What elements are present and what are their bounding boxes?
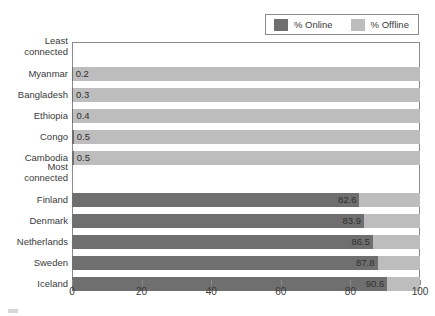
bar-row[interactable]: 86.5 <box>72 231 420 252</box>
bar-row[interactable]: 0.5 <box>72 126 420 147</box>
x-axis-tick <box>420 280 421 285</box>
x-axis-tick-label: 20 <box>136 286 147 297</box>
bar-segment-online[interactable] <box>72 193 359 207</box>
bar-value-label: 0.4 <box>76 109 89 123</box>
bar-row[interactable]: 82.6 <box>72 189 420 210</box>
bar-segment-offline[interactable] <box>73 88 420 102</box>
bar-stack: 0.5 <box>72 130 420 144</box>
bar-stack: 86.5 <box>72 235 420 249</box>
label-line-2: connected <box>0 46 68 57</box>
y-axis-label-ethiopia: Ethiopia <box>0 110 68 121</box>
x-axis-tick-label: 100 <box>412 286 429 297</box>
bar-value-label: 0.5 <box>77 130 90 144</box>
x-axis-tick-label: 80 <box>345 286 356 297</box>
bar-row[interactable]: 0.5 <box>72 147 420 168</box>
bar-segment-online[interactable] <box>72 235 373 249</box>
legend-label-offline: % Offline <box>371 20 409 30</box>
y-axis-label-sweden: Sweden <box>0 257 68 268</box>
bar-stack: 83.9 <box>72 214 420 228</box>
bar-value-label: 0.5 <box>77 151 90 165</box>
chart-legend: % Online % Offline <box>265 14 419 35</box>
y-axis-label-congo: Congo <box>0 131 68 142</box>
x-axis-tick <box>350 280 351 285</box>
bar-row[interactable]: 0.2 <box>72 63 420 84</box>
bar-row[interactable]: 87.8 <box>72 252 420 273</box>
bar-value-label: 86.5 <box>352 235 371 249</box>
bar-stack: 0.2 <box>72 67 420 81</box>
x-axis-tick-label: 0 <box>69 286 75 297</box>
legend-label-online: % Online <box>294 20 333 30</box>
bar-segment-offline[interactable] <box>74 130 420 144</box>
chart-root: % Online % Offline LeastconnectedMyanmar… <box>0 0 435 316</box>
bar-segment-offline[interactable] <box>364 214 420 228</box>
y-axis-label-denmark: Denmark <box>0 215 68 226</box>
x-axis-tick <box>211 280 212 285</box>
y-axis-label-netherlands: Netherlands <box>0 236 68 247</box>
x-axis-tick <box>72 280 73 285</box>
bar-value-label: 0.2 <box>76 67 89 81</box>
bar-row[interactable]: 0.3 <box>72 84 420 105</box>
bar-rows: 0.20.30.40.50.582.683.986.587.890.6 <box>72 42 420 280</box>
x-axis-tick-label: 40 <box>206 286 217 297</box>
x-axis-tick-label: 60 <box>275 286 286 297</box>
bar-value-label: 83.9 <box>342 214 361 228</box>
label-line-1: Most <box>0 161 68 172</box>
bar-value-label: 87.8 <box>356 256 375 270</box>
bar-stack: 0.3 <box>72 88 420 102</box>
legend-entry-offline: % Offline <box>351 19 409 31</box>
bar-stack: 0.5 <box>72 151 420 165</box>
bar-row[interactable]: 83.9 <box>72 210 420 231</box>
legend-entry-online: % Online <box>274 19 333 31</box>
y-axis-label-bangladesh: Bangladesh <box>0 89 68 100</box>
x-axis-tick <box>142 280 143 285</box>
bar-row[interactable]: 0.4 <box>72 105 420 126</box>
bar-stack: 87.8 <box>72 256 420 270</box>
bar-stack: 0.4 <box>72 109 420 123</box>
y-axis-label-most-connected: Mostconnected <box>0 161 68 183</box>
y-axis-label-least-connected: Leastconnected <box>0 35 68 57</box>
label-line-2: connected <box>0 172 68 183</box>
bar-value-label: 0.3 <box>76 88 89 102</box>
bar-segment-offline[interactable] <box>359 193 420 207</box>
y-axis-label-myanmar: Myanmar <box>0 68 68 79</box>
y-axis-label-finland: Finland <box>0 194 68 205</box>
x-axis-labels: 020406080100 <box>0 286 435 300</box>
legend-swatch-offline <box>351 19 365 31</box>
bar-segment-offline[interactable] <box>378 256 420 270</box>
bar-segment-online[interactable] <box>72 256 378 270</box>
bar-segment-offline[interactable] <box>74 151 420 165</box>
bar-segment-offline[interactable] <box>373 235 420 249</box>
figure-caption <box>8 305 24 316</box>
bar-segment-offline[interactable] <box>73 109 420 123</box>
label-line-1: Least <box>0 35 68 46</box>
legend-swatch-online <box>274 19 288 31</box>
caption-marker-icon <box>8 309 18 313</box>
bar-segment-offline[interactable] <box>73 67 420 81</box>
x-axis-tick <box>281 280 282 285</box>
bar-segment-online[interactable] <box>72 214 364 228</box>
bar-stack: 82.6 <box>72 193 420 207</box>
bar-value-label: 82.6 <box>338 193 357 207</box>
